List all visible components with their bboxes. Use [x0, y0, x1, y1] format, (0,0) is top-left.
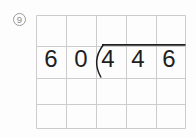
work-area-row-2[interactable]	[36, 104, 185, 128]
dividend-digit-3: 6	[154, 43, 184, 75]
divisor-digit-2: 0	[66, 43, 96, 75]
problem-number: 9	[17, 15, 22, 25]
quotient-cell-1[interactable]	[36, 15, 66, 46]
quotient-cell-4[interactable]	[126, 15, 156, 46]
work-area-row-1[interactable]	[36, 78, 185, 104]
quotient-cell-2[interactable]	[66, 15, 96, 46]
quotient-cell-3[interactable]	[96, 15, 126, 46]
long-division-worksheet: 9 6 0 4 4 6	[0, 0, 196, 137]
dividend-digit-2: 4	[123, 43, 153, 75]
dividend-digit-1: 4	[93, 43, 123, 75]
quotient-cell-5[interactable]	[156, 15, 185, 46]
divisor-digit-1: 6	[36, 43, 66, 75]
problem-number-badge: 9	[13, 13, 26, 26]
